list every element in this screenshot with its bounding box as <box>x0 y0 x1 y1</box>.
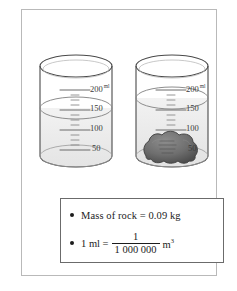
figure-border: 200ml 150 100 50 <box>21 9 217 276</box>
beaker-left-label-50: 50 <box>92 143 101 153</box>
fraction-numerator: 1 <box>130 231 141 242</box>
fact-rock-mass-text: Mass of rock = 0.09 kg <box>81 210 181 221</box>
beaker-with-rock: 200ml 150 100 50 <box>126 46 218 178</box>
beaker-right-label-50: 50 <box>188 143 197 153</box>
conversion-fraction: 1 1 000 000 <box>112 231 160 254</box>
unit-exponent: 3 <box>171 237 174 244</box>
scale-value: 200 <box>186 84 199 94</box>
scale-value: 200 <box>90 84 103 94</box>
beaker-without-rock: 200ml 150 100 50 <box>30 48 122 178</box>
conversion-unit: m3 <box>163 237 174 250</box>
beaker-left-label-100: 100 <box>90 123 103 133</box>
bullet-icon <box>70 241 74 245</box>
conversion-lead: 1 ml = <box>81 238 109 249</box>
fact-rock-mass: Mass of rock = 0.09 kg <box>70 205 181 225</box>
beaker-left-graphic <box>30 48 122 178</box>
bullet-icon <box>70 213 74 217</box>
beaker-left-label-200: 200ml <box>90 83 110 94</box>
beaker-left-label-150: 150 <box>90 103 103 113</box>
beaker-right-graphic <box>126 46 218 178</box>
beaker-right-label-200: 200ml <box>186 83 206 94</box>
figure-canvas: 200ml 150 100 50 <box>0 0 237 291</box>
fact-volume-conversion: 1 ml = 1 1 000 000 m3 <box>70 229 174 257</box>
beaker-right-label-100: 100 <box>186 123 199 133</box>
scale-unit: ml <box>200 83 206 89</box>
facts-box: Mass of rock = 0.09 kg 1 ml = 1 1 000 00… <box>60 198 224 263</box>
fraction-denominator: 1 000 000 <box>112 244 160 255</box>
scale-unit: ml <box>104 83 110 89</box>
unit-base: m <box>163 238 171 249</box>
beaker-right-label-150: 150 <box>186 103 199 113</box>
